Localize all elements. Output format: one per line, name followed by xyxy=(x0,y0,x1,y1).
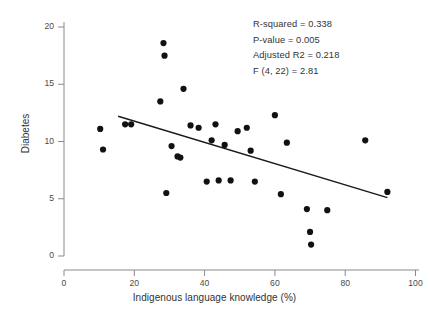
scatter-point xyxy=(177,154,183,160)
scatter-point xyxy=(187,122,193,128)
statistics-annotation: R-squared = 0.338 P-value = 0.005 Adjust… xyxy=(253,17,413,79)
scatter-point xyxy=(244,125,250,131)
x-tick-label: 20 xyxy=(119,278,149,288)
scatter-point xyxy=(157,98,163,104)
y-tick-label: 0 xyxy=(34,250,54,260)
y-axis-ticks xyxy=(58,27,64,256)
p-value-text: P-value = 0.005 xyxy=(253,33,413,49)
x-axis-ticks xyxy=(64,270,416,276)
scatter-point xyxy=(196,125,202,131)
scatter-point xyxy=(122,121,128,127)
x-tick-label: 60 xyxy=(260,278,290,288)
y-axis-title: Diabetes xyxy=(20,69,31,199)
scatter-point xyxy=(180,86,186,92)
scatter-point xyxy=(284,140,290,146)
f-statistic-text: F (4, 22) = 2.81 xyxy=(253,64,413,80)
scatter-point xyxy=(212,121,218,127)
y-tick-label: 20 xyxy=(34,21,54,31)
scatter-point xyxy=(362,137,368,143)
scatter-point xyxy=(278,191,284,197)
scatter-point xyxy=(97,126,103,132)
scatter-point xyxy=(163,190,169,196)
x-tick-label: 80 xyxy=(330,278,360,288)
scatter-point xyxy=(252,178,258,184)
scatter-point xyxy=(209,137,215,143)
scatter-plot-figure: Diabetes Indigenous language knowledge (… xyxy=(0,0,429,319)
r-squared-text: R-squared = 0.338 xyxy=(253,17,413,33)
scatter-point xyxy=(160,40,166,46)
scatter-point xyxy=(228,177,234,183)
y-tick-label: 15 xyxy=(34,78,54,88)
trendline-segment xyxy=(118,116,387,197)
scatter-point xyxy=(168,143,174,149)
y-tick-label: 10 xyxy=(34,136,54,146)
scatter-point xyxy=(204,178,210,184)
x-tick-label: 40 xyxy=(190,278,220,288)
scatter-point xyxy=(100,146,106,152)
scatter-point xyxy=(161,53,167,59)
regression-trendline xyxy=(118,116,387,197)
scatter-point xyxy=(384,189,390,195)
scatter-point xyxy=(216,177,222,183)
scatter-point xyxy=(307,229,313,235)
scatter-point xyxy=(324,207,330,213)
x-tick-label: 0 xyxy=(49,278,79,288)
scatter-point xyxy=(235,128,241,134)
scatter-point xyxy=(248,148,254,154)
scatter-point xyxy=(304,206,310,212)
scatter-point xyxy=(128,121,134,127)
x-tick-label: 100 xyxy=(401,278,429,288)
y-tick-label: 5 xyxy=(34,193,54,203)
scatter-point xyxy=(272,112,278,118)
scatter-point xyxy=(222,142,228,148)
scatter-point xyxy=(308,241,314,247)
adjusted-r2-text: Adjusted R2 = 0.218 xyxy=(253,48,413,64)
x-axis-title: Indigenous language knowledge (%) xyxy=(0,292,429,303)
